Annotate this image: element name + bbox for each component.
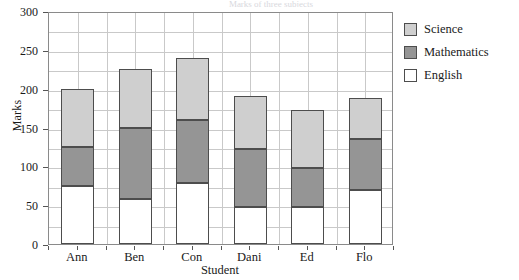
gridline-horizontal (49, 188, 392, 189)
y-axis-tick-label: 200 (4, 84, 38, 96)
legend-swatch-science (404, 23, 417, 36)
bar-segment-english (61, 186, 94, 244)
stacked-bar-chart-figure: Marks of three subjects Marks 3002502001… (0, 0, 519, 280)
gridline-horizontal (49, 110, 392, 111)
gridline-horizontal (49, 207, 392, 208)
bar-stack (234, 11, 267, 244)
bar-stack (349, 11, 382, 244)
y-axis-tick-label: 300 (4, 6, 38, 18)
gridline-horizontal (49, 227, 392, 228)
legend-label: Science (424, 23, 463, 36)
gridline-horizontal (49, 149, 392, 150)
bar-stack (176, 11, 209, 244)
bar-segment-english (176, 183, 209, 244)
gridline-horizontal (49, 52, 392, 53)
bar-segment-science (291, 110, 324, 168)
legend: ScienceMathematicsEnglish (404, 18, 519, 87)
bar-segment-english (234, 207, 267, 244)
bar-segment-english (349, 190, 382, 244)
bar-segment-science (176, 58, 209, 120)
chart-title-remnant: Marks of three subjects (196, 0, 346, 7)
bar-segment-science (234, 96, 267, 149)
x-axis-label: Student (0, 263, 440, 278)
bar-segment-english (119, 199, 152, 244)
y-axis-tick-label: 250 (4, 45, 38, 57)
legend-label: Mathematics (424, 46, 489, 59)
gridline-horizontal (49, 71, 392, 72)
bar-segment-science (349, 98, 382, 139)
gridline-vertical (107, 13, 108, 244)
bar-segment-mathematics (176, 120, 209, 184)
legend-swatch-english (404, 69, 417, 82)
gridline-vertical (279, 13, 280, 244)
bar-segment-mathematics (61, 147, 94, 186)
y-axis-tick-label: 0 (4, 239, 38, 251)
bar-segment-mathematics (349, 139, 382, 189)
bar-segment-mathematics (234, 149, 267, 207)
gridline-horizontal (49, 32, 392, 33)
bar-stack (61, 11, 94, 244)
gridline-horizontal (49, 130, 392, 131)
bar-stack (291, 11, 324, 244)
bar-segment-science (119, 69, 152, 127)
legend-swatch-mathematics (404, 46, 417, 59)
gridline-horizontal (49, 91, 392, 92)
bar-segment-mathematics (291, 168, 324, 208)
gridline-horizontal (49, 168, 392, 169)
legend-item-science[interactable]: Science (404, 18, 519, 41)
bar-segment-mathematics (119, 128, 152, 199)
gridline-vertical (164, 13, 165, 244)
plot-area (48, 12, 393, 245)
legend-item-english[interactable]: English (404, 64, 519, 87)
y-axis-tick-label: 150 (4, 123, 38, 135)
bar-segment-english (291, 207, 324, 244)
y-axis-tick-label: 100 (4, 161, 38, 173)
bar-stack (119, 11, 152, 244)
legend-item-mathematics[interactable]: Mathematics (404, 41, 519, 64)
gridline-vertical (337, 13, 338, 244)
gridline-vertical (222, 13, 223, 244)
x-axis-tick-label: Flo (329, 250, 399, 264)
legend-label: English (424, 69, 462, 82)
bar-segment-science (61, 89, 94, 147)
y-axis-tick-label: 50 (4, 200, 38, 212)
